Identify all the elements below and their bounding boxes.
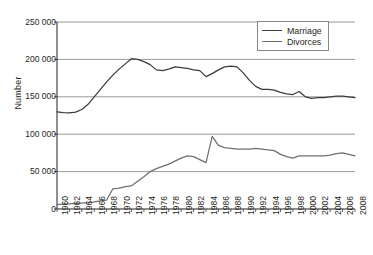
- x-axis-tick-label: 1974: [148, 196, 157, 215]
- x-axis-tick-label: 1980: [185, 196, 194, 215]
- x-axis-tick-label: 1986: [222, 196, 231, 215]
- x-axis-tick-label: 1972: [135, 196, 144, 215]
- x-axis-tick-label: 1962: [73, 196, 82, 215]
- x-axis-tick-label: 1982: [197, 196, 206, 215]
- x-axis-tick-label: 1992: [259, 196, 268, 215]
- x-axis-tick-label: 2002: [321, 196, 330, 215]
- x-axis-tick-label: 1984: [210, 196, 219, 215]
- legend: Marriage Divorces: [257, 21, 329, 51]
- x-axis-tick-label: 1968: [110, 196, 119, 215]
- x-axis-tick-label: 2008: [359, 196, 368, 215]
- chart-container: Number 050 000100 000150 000200 000250 0…: [0, 0, 373, 255]
- legend-label-divorces: Divorces: [287, 37, 321, 47]
- x-axis-tick-label: 2000: [309, 196, 318, 215]
- x-axis-tick-label: 1998: [297, 196, 306, 215]
- x-axis-tick-label: 1964: [85, 196, 94, 215]
- legend-item-marriage[interactable]: Marriage: [262, 25, 322, 36]
- x-axis-tick-label: 1976: [160, 196, 169, 215]
- x-axis-tick-label: 1994: [272, 196, 281, 215]
- x-axis-tick-label: 2004: [334, 196, 343, 215]
- x-axis-tick-label: 1966: [98, 196, 107, 215]
- legend-line-icon-divorces: [262, 41, 282, 42]
- x-axis-tick-label: 2006: [346, 196, 355, 215]
- x-axis-tick-label: 1990: [247, 196, 256, 215]
- legend-label-marriage: Marriage: [287, 26, 322, 36]
- x-axis-tick-label: 1996: [284, 196, 293, 215]
- x-axis-tick-label: 1978: [172, 196, 181, 215]
- legend-line-icon-marriage: [262, 30, 282, 31]
- x-axis-tick-label: 1988: [234, 196, 243, 215]
- x-axis-tick-label: 1970: [123, 196, 132, 215]
- legend-item-divorces[interactable]: Divorces: [262, 36, 322, 47]
- x-axis-tick-label: 1960: [61, 196, 70, 215]
